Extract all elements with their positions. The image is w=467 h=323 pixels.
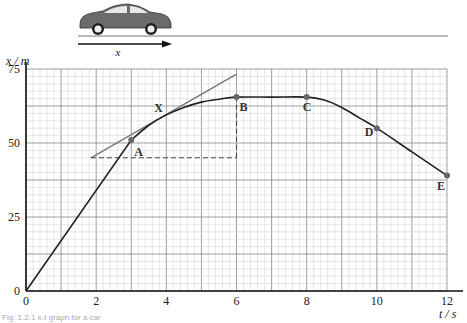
x-tick-label: 2 — [93, 294, 99, 308]
y-tick-label: 25 — [8, 210, 20, 224]
point-label-a: A — [134, 145, 143, 159]
point-label-b: B — [240, 100, 248, 114]
x-tick-label: 12 — [441, 294, 453, 308]
xt-graph-figure: x 0246810120255075 AXBCDE x / m t / s — [0, 0, 467, 323]
x-tick-label: 8 — [304, 294, 310, 308]
x-tick-label: 4 — [163, 294, 169, 308]
y-tick-label: 50 — [8, 136, 20, 150]
direction-label: x — [115, 46, 121, 58]
x-tick-label: 6 — [234, 294, 240, 308]
point-label-c: C — [303, 100, 312, 114]
y-axis-label: x / m — [5, 54, 30, 68]
y-tick-label: 0 — [14, 284, 20, 298]
point-label-x: X — [154, 101, 163, 115]
figure-caption: Fig. 1.2.1 x-t graph for a car — [2, 313, 101, 322]
x-tick-label: 10 — [371, 294, 383, 308]
point-label-e: E — [437, 179, 445, 193]
direction-arrow — [78, 41, 172, 48]
point-a — [128, 137, 134, 143]
x-tick-label: 0 — [23, 294, 29, 308]
chart-grid — [26, 69, 447, 291]
point-d — [374, 125, 380, 131]
car-icon — [80, 4, 171, 35]
x-axis-label: t / s — [439, 307, 457, 321]
point-label-d: D — [365, 125, 374, 139]
